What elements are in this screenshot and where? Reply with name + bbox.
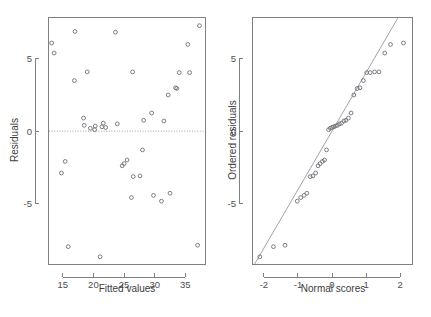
data-point: [138, 174, 142, 178]
data-point: [198, 24, 202, 28]
data-point: [93, 124, 97, 128]
data-point: [60, 171, 64, 175]
data-point: [131, 175, 135, 179]
data-point: [131, 70, 135, 74]
data-point: [361, 79, 365, 83]
data-point: [177, 71, 181, 75]
data-point: [82, 123, 86, 127]
x-axis-label: Fitted values: [99, 283, 156, 294]
data-point: [349, 111, 353, 115]
y-axis-tick-label: 0: [27, 126, 32, 137]
data-point: [389, 43, 393, 47]
data-point: [93, 128, 97, 132]
data-point: [196, 243, 200, 247]
data-point: [272, 245, 276, 249]
normal-qq-panel: -2-101250-5 Normal scores Ordered residu…: [215, 0, 431, 317]
data-point: [283, 243, 287, 247]
data-point: [50, 41, 54, 45]
data-point: [373, 70, 377, 74]
x-axis-tick-label: 35: [180, 279, 191, 290]
data-point: [188, 71, 192, 75]
qq-reference-line: [252, 0, 412, 269]
data-point: [168, 191, 172, 195]
data-point: [85, 70, 89, 74]
plot-frame: [48, 17, 205, 264]
residual-diagnostics-figure: 152025303550-5 Fitted values Residuals -…: [0, 0, 431, 317]
data-point: [88, 126, 92, 130]
y-axis-tick-label: -5: [24, 198, 32, 209]
data-point: [82, 116, 86, 120]
x-axis-tick-label: 15: [57, 279, 68, 290]
y-axis-tick-label: 5: [231, 53, 236, 64]
data-point: [141, 148, 145, 152]
data-point: [175, 87, 179, 91]
data-point: [104, 126, 108, 130]
data-point: [98, 255, 102, 259]
x-axis-label: Normal scores: [301, 283, 365, 294]
data-point: [186, 43, 190, 47]
data-point: [114, 30, 118, 34]
x-axis-tick-label: 20: [88, 279, 99, 290]
data-point: [73, 30, 77, 34]
y-axis-tick-label: 5: [27, 53, 32, 64]
data-point: [314, 171, 318, 175]
data-point: [166, 93, 170, 97]
data-point: [115, 122, 119, 126]
data-point: [295, 199, 299, 203]
x-axis-tick-label: 2: [397, 279, 402, 290]
data-point: [150, 111, 154, 115]
residuals-vs-fitted-plot: 152025303550-5 Fitted values Residuals: [0, 0, 216, 317]
data-point: [346, 116, 350, 120]
x-axis-tick-label: -2: [260, 279, 268, 290]
data-point: [162, 119, 166, 123]
y-axis-label: Residuals: [9, 118, 20, 162]
data-point: [383, 51, 387, 55]
data-point: [125, 158, 129, 162]
y-axis-tick-label: -5: [228, 198, 236, 209]
data-point: [130, 196, 134, 200]
data-point: [160, 199, 164, 203]
data-point: [152, 193, 156, 197]
data-point: [377, 70, 381, 74]
residuals-vs-fitted-panel: 152025303550-5 Fitted values Residuals: [0, 0, 216, 317]
data-point: [66, 245, 70, 249]
y-axis-label: Ordered residuals: [227, 100, 238, 179]
data-point: [325, 148, 329, 152]
data-point: [52, 51, 56, 55]
data-point: [72, 79, 76, 83]
data-point: [305, 191, 309, 195]
data-point: [402, 41, 406, 45]
data-point: [142, 118, 146, 122]
normal-qq-plot: -2-101250-5 Normal scores Ordered residu…: [215, 0, 431, 317]
data-point: [63, 160, 67, 164]
data-point: [101, 121, 105, 125]
